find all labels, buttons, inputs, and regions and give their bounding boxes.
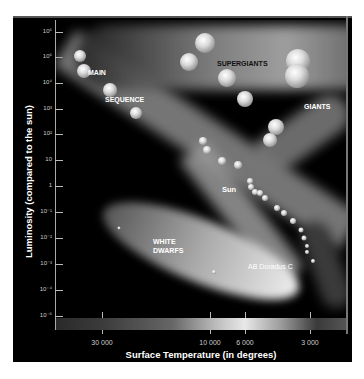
x-tick-mark-lower — [102, 330, 103, 334]
label-main: MAIN — [88, 69, 106, 76]
star-point — [237, 91, 253, 107]
x-tick-mark — [245, 312, 246, 318]
y-tick-label: 10⁻¹ — [24, 208, 52, 215]
y-tick-label: 10⁻² — [24, 234, 52, 241]
x-tick-label: 10 000 — [199, 339, 220, 346]
star-point — [180, 53, 198, 71]
label-sun: Sun — [222, 185, 236, 194]
x-tick-mark-lower — [245, 330, 246, 334]
x-axis-title: Surface Temperature (in degrees) — [56, 349, 346, 360]
y-tick-label: 10⁻³ — [24, 260, 52, 267]
x-tick-mark — [310, 312, 311, 318]
region-giants-band — [244, 87, 346, 183]
y-tick-label: 10⁵ — [24, 53, 52, 60]
star-point — [218, 157, 226, 165]
x-tick-mark-lower — [310, 330, 311, 334]
label-dwarfs: DWARFS — [153, 247, 183, 254]
label-white: WHITE — [153, 238, 176, 245]
star-point — [218, 69, 236, 87]
x-tick-mark-lower — [210, 330, 211, 334]
frame-right-border — [346, 16, 348, 334]
label-sequence: SEQUENCE — [105, 96, 144, 103]
star-point — [262, 195, 268, 201]
star-point — [234, 161, 242, 169]
x-tick-label: 3 000 — [301, 339, 319, 346]
star-point — [130, 107, 142, 119]
y-tick-label: 10⁻⁴ — [24, 286, 52, 293]
frame-top-border — [13, 16, 352, 18]
y-tick-label: 10 — [24, 156, 52, 163]
star-point — [195, 33, 215, 53]
y-tick-label: 1 — [24, 182, 52, 189]
star-point — [285, 64, 309, 88]
star-point — [281, 210, 287, 216]
y-tick-label: 10⁶ — [24, 28, 52, 35]
star-point — [311, 259, 315, 263]
star-point — [305, 250, 309, 254]
star-point — [305, 244, 309, 248]
x-tick-mark — [102, 312, 103, 318]
label-ab-doradus-c: AB Doradus C — [248, 263, 293, 270]
star-point — [199, 137, 207, 145]
star-point — [203, 146, 211, 154]
star-point — [299, 228, 304, 233]
star-point — [263, 133, 277, 147]
y-tick-label: 10⁻⁵ — [24, 312, 52, 319]
y-tick-label: 10³ — [24, 105, 52, 112]
star-point — [290, 218, 296, 224]
y-tick-label: 10⁴ — [24, 79, 52, 86]
star-point — [302, 236, 307, 241]
star-point — [118, 227, 121, 230]
label-giants: GIANTS — [304, 103, 330, 110]
label-supergiants: SUPERGIANTS — [217, 60, 268, 67]
star-point — [74, 50, 86, 62]
x-tick-mark — [210, 312, 211, 318]
temperature-color-bar — [56, 318, 346, 330]
plot-area: SUPERGIANTS GIANTS MAIN SEQUENCE WHITE D… — [56, 20, 346, 318]
star-point — [212, 270, 216, 274]
y-tick-label: 10² — [24, 130, 52, 137]
x-tick-label: 6 000 — [236, 339, 254, 346]
star-point — [103, 83, 117, 97]
star-point — [274, 205, 280, 211]
x-tick-label: 30 000 — [91, 339, 112, 346]
